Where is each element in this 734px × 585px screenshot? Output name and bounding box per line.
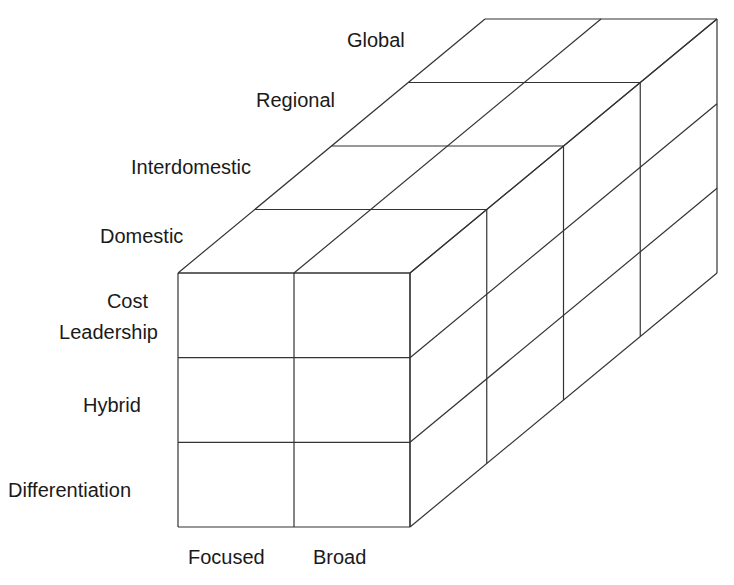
- row-label-differentiation: Differentiation: [8, 478, 131, 502]
- row-label-cost-line2: Leadership: [59, 320, 158, 344]
- row-label-cost-leadership: Cost Leadership: [59, 289, 158, 344]
- depth-label-domestic: Domestic: [100, 224, 183, 248]
- row-label-cost-line1: Cost: [59, 289, 158, 313]
- depth-label-global: Global: [347, 28, 405, 52]
- col-label-focused: Focused: [188, 545, 265, 569]
- depth-label-regional: Regional: [256, 88, 335, 112]
- depth-label-interdomestic: Interdomestic: [131, 155, 251, 179]
- col-label-broad: Broad: [313, 545, 366, 569]
- row-label-hybrid: Hybrid: [83, 393, 141, 417]
